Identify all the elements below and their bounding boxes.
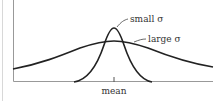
small-sigma-label: small σ — [130, 14, 163, 24]
mean-label: mean — [101, 86, 126, 96]
large-sigma-leader — [134, 39, 146, 42]
normal-distribution-chart: small σ large σ mean — [0, 0, 220, 101]
small-sigma-leader — [117, 19, 128, 27]
large-sigma-label: large σ — [148, 34, 181, 44]
large-sigma-curve — [13, 41, 213, 69]
small-sigma-curve — [74, 28, 152, 82]
